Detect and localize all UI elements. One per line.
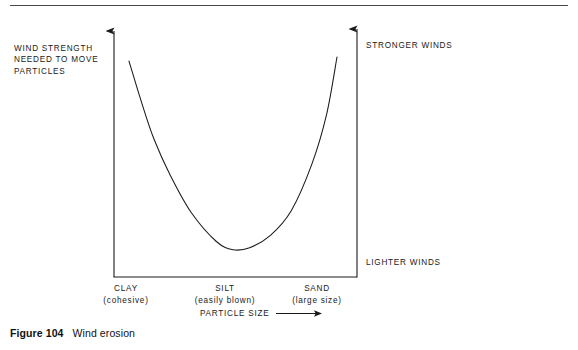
category-clay: CLAY (cohesive) [95, 283, 157, 307]
category-sand-name: SAND [282, 283, 352, 295]
category-clay-description: (cohesive) [95, 295, 157, 307]
category-silt-name: SILT [186, 283, 264, 295]
wind-erosion-curve [129, 57, 337, 250]
category-silt: SILT (easily blown) [186, 283, 264, 307]
figure-caption: Figure 104Wind erosion [10, 327, 135, 339]
x-axis-title-group: PARTICLE SIZE [200, 309, 322, 318]
category-silt-description: (easily blown) [186, 295, 264, 307]
figure-number: Figure 104 [10, 327, 64, 339]
category-sand: SAND (large size) [282, 283, 352, 307]
x-axis-direction-arrow-icon [276, 309, 322, 318]
stronger-winds-label: STRONGER WINDS [366, 41, 452, 50]
lighter-winds-label: LIGHTER WINDS [366, 258, 441, 267]
figure-page: WIND STRENGTH NEEDED TO MOVE PARTICLES S… [0, 0, 578, 350]
category-clay-name: CLAY [95, 283, 157, 295]
y-axis-left-label: WIND STRENGTH NEEDED TO MOVE PARTICLES [14, 43, 114, 77]
wind-erosion-figure: WIND STRENGTH NEEDED TO MOVE PARTICLES S… [0, 0, 578, 305]
figure-title: Wind erosion [73, 327, 135, 339]
category-sand-description: (large size) [282, 295, 352, 307]
x-axis-title: PARTICLE SIZE [200, 309, 270, 318]
